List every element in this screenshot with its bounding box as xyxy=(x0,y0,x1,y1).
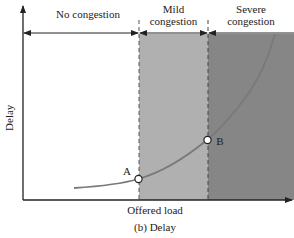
congestion-delay-diagram xyxy=(0,0,294,238)
point-b-marker xyxy=(204,136,211,143)
severe-congestion-region xyxy=(208,34,294,200)
region-label-severe-congestion: Severecongestion xyxy=(208,4,294,27)
point-a-marker xyxy=(135,175,142,182)
figure-caption: (b) Delay xyxy=(105,222,205,234)
point-b-label: B xyxy=(215,136,225,148)
region-label-no-congestion: No congestion xyxy=(40,9,136,21)
region-label-mild-congestion: Mildcongestion xyxy=(139,4,208,27)
point-a-label: A xyxy=(122,166,132,178)
x-axis-label: Offered load xyxy=(105,205,205,217)
y-axis-label: Delay xyxy=(4,96,16,140)
